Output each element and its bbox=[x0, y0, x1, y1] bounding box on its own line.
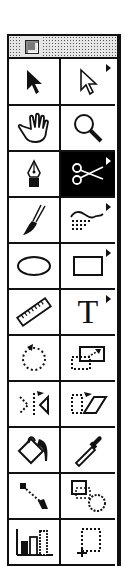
scissors-icon bbox=[70, 161, 106, 187]
auto-trace-icon bbox=[68, 478, 108, 514]
tool-grid: T bbox=[9, 59, 117, 566]
hand-tool[interactable] bbox=[9, 106, 61, 152]
flyout-indicator-icon bbox=[106, 249, 111, 257]
toolbox-palette: T bbox=[7, 34, 121, 566]
reflect-tool[interactable] bbox=[9, 382, 61, 428]
flyout-indicator-icon bbox=[106, 203, 111, 211]
pen-tool[interactable] bbox=[9, 152, 61, 198]
scissors-tool[interactable] bbox=[61, 152, 115, 198]
page-crop-icon bbox=[72, 525, 104, 559]
blend-icon bbox=[16, 479, 52, 513]
scale-icon bbox=[68, 343, 108, 373]
reflect-icon bbox=[16, 389, 52, 419]
arrow-solid-icon bbox=[23, 68, 45, 96]
rotate-tool[interactable] bbox=[9, 336, 61, 382]
auto-trace-tool[interactable] bbox=[61, 474, 115, 520]
shear-tool[interactable] bbox=[61, 382, 115, 428]
paint-bucket-icon bbox=[15, 433, 53, 467]
pen-nib-icon bbox=[24, 159, 44, 189]
type-t-icon: T bbox=[78, 295, 99, 329]
eyedropper-icon bbox=[70, 433, 106, 467]
ellipse-icon bbox=[15, 254, 53, 278]
bar-graph-icon bbox=[13, 527, 55, 557]
magnifier-icon bbox=[71, 112, 105, 144]
hand-icon bbox=[16, 112, 52, 144]
flyout-indicator-icon bbox=[106, 295, 111, 303]
close-box-button[interactable] bbox=[25, 40, 39, 54]
eyedropper-tool[interactable] bbox=[61, 428, 115, 474]
brush-tool[interactable] bbox=[9, 198, 61, 244]
blend-tool[interactable] bbox=[9, 474, 61, 520]
flyout-indicator-icon bbox=[106, 64, 111, 72]
flyout-indicator-icon bbox=[106, 157, 111, 165]
paintbrush-icon bbox=[19, 203, 49, 237]
palette-titlebar[interactable] bbox=[9, 36, 117, 59]
shear-icon bbox=[68, 389, 108, 419]
page-tool[interactable] bbox=[61, 520, 115, 566]
paint-bucket-tool[interactable] bbox=[9, 428, 61, 474]
zoom-tool[interactable] bbox=[61, 106, 115, 152]
ruler-icon bbox=[14, 295, 54, 329]
freehand-icon bbox=[68, 207, 108, 233]
type-tool[interactable]: T bbox=[61, 290, 115, 336]
selection-tool[interactable] bbox=[9, 59, 61, 106]
scale-tool[interactable] bbox=[61, 336, 115, 382]
ellipse-tool[interactable] bbox=[9, 244, 61, 290]
rectangle-icon bbox=[70, 253, 106, 279]
direct-selection-tool[interactable] bbox=[61, 59, 115, 106]
graph-tool[interactable] bbox=[9, 520, 61, 566]
rotate-icon bbox=[19, 342, 49, 374]
rectangle-tool[interactable] bbox=[61, 244, 115, 290]
measure-tool[interactable] bbox=[9, 290, 61, 336]
freehand-tool[interactable] bbox=[61, 198, 115, 244]
arrow-hollow-icon bbox=[77, 68, 99, 96]
